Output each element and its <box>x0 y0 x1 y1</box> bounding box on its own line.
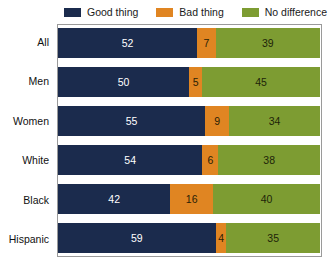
bar-row: 52739 <box>58 28 320 58</box>
y-axis-tick-label: Men <box>0 66 53 96</box>
bar-segment: 45 <box>202 67 320 97</box>
legend-item[interactable]: No difference <box>242 7 327 18</box>
bar-row: 59435 <box>58 223 320 253</box>
plot-area: 5273950545559345463842164059435 <box>57 24 322 257</box>
y-axis-tick-label: White <box>0 145 53 175</box>
y-axis-tick-label: Black <box>0 185 53 215</box>
bar-segment-value-label: 4 <box>218 233 224 244</box>
bar-segment-value-label: 42 <box>108 194 120 205</box>
bar-segment-value-label: 40 <box>261 194 273 205</box>
bar-segment: 40 <box>213 184 320 214</box>
bar-segment: 5 <box>189 67 202 97</box>
bar-segment: 52 <box>58 28 197 58</box>
legend-label: No difference <box>265 7 327 18</box>
legend-swatch-icon <box>64 8 81 17</box>
bar-segment: 6 <box>202 145 218 175</box>
bar-segment-value-label: 5 <box>193 77 199 88</box>
bar-segment-value-label: 35 <box>267 233 279 244</box>
bar-segment-value-label: 34 <box>269 116 281 127</box>
bar-segment-value-label: 39 <box>262 38 274 49</box>
legend-item[interactable]: Bad thing <box>156 7 223 18</box>
bar-segment-value-label: 7 <box>203 38 209 49</box>
bar-segment: 4 <box>216 223 227 253</box>
bar-segment: 34 <box>229 106 320 136</box>
bar-segment: 35 <box>226 223 320 253</box>
y-axis-tick-label: All <box>0 27 53 57</box>
y-axis-tick-label: Women <box>0 106 53 136</box>
bar-segment: 59 <box>58 223 216 253</box>
legend-label: Bad thing <box>179 7 223 18</box>
y-axis-category-labels: AllMenWomenWhiteBlackHispanic <box>0 24 53 257</box>
bar-row: 55934 <box>58 106 320 136</box>
bar-row: 54638 <box>58 145 320 175</box>
bar-segment-value-label: 16 <box>186 194 198 205</box>
bar-segment-value-label: 55 <box>126 116 138 127</box>
bar-segment-value-label: 52 <box>122 38 134 49</box>
bar-segment: 42 <box>58 184 170 214</box>
bar-segment: 50 <box>58 67 189 97</box>
bar-segment: 16 <box>170 184 213 214</box>
bar-row: 421640 <box>58 184 320 214</box>
legend-label: Good thing <box>87 7 138 18</box>
chart-legend: Good thingBad thingNo difference <box>0 3 333 21</box>
bar-segment-value-label: 38 <box>263 155 275 166</box>
legend-swatch-icon <box>156 8 173 17</box>
y-axis-tick-label: Hispanic <box>0 224 53 254</box>
bar-segment: 39 <box>216 28 320 58</box>
bar-segment: 54 <box>58 145 202 175</box>
bar-segment-value-label: 50 <box>118 77 130 88</box>
bar-segment: 7 <box>197 28 216 58</box>
bar-segment-value-label: 6 <box>207 155 213 166</box>
bar-segment-value-label: 59 <box>131 233 143 244</box>
bar-segment: 9 <box>205 106 229 136</box>
bar-row: 50545 <box>58 67 320 97</box>
legend-item[interactable]: Good thing <box>64 7 138 18</box>
stacked-bar-chart-figure: Good thingBad thingNo difference AllMenW… <box>0 0 333 263</box>
bar-segment: 38 <box>218 145 320 175</box>
legend-swatch-icon <box>242 8 259 17</box>
bar-segment-value-label: 9 <box>214 116 220 127</box>
bar-segment-value-label: 54 <box>124 155 136 166</box>
bar-segment-value-label: 45 <box>255 77 267 88</box>
bar-segment: 55 <box>58 106 205 136</box>
